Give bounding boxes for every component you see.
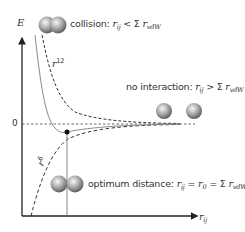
- y-axis-label: E: [17, 17, 24, 28]
- no-interaction-annotation: no interaction: rij > Σ rvdW: [126, 81, 244, 94]
- optimum-annotation: optimum distance: rij = r0 = Σ rvdW: [88, 178, 245, 191]
- repulsive-curve-label: r12: [52, 57, 64, 69]
- attractive-curve: [31, 125, 180, 217]
- x-axis-label: rij: [199, 211, 207, 224]
- collision-atoms: [39, 17, 67, 34]
- separated-atoms: [156, 103, 202, 119]
- zero-label: 0: [12, 118, 18, 128]
- potential-energy-diagram: [0, 0, 245, 232]
- energy-minimum-point: [65, 130, 70, 135]
- collision-annotation: collision: rij < Σ rvdW: [70, 18, 161, 31]
